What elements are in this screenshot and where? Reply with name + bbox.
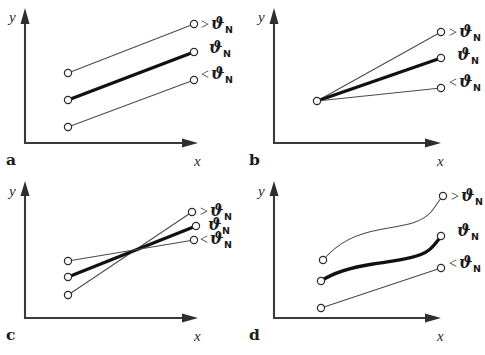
panel-letter-b: b bbox=[249, 150, 260, 169]
endpoint-marker bbox=[190, 48, 197, 55]
endpoint-marker bbox=[64, 123, 71, 130]
series-label-nominal: ϑN bbox=[209, 38, 231, 59]
x-axis-arrow-icon bbox=[425, 139, 441, 148]
x-axis-label: x bbox=[436, 328, 444, 344]
axis-lines bbox=[274, 192, 429, 318]
y-axis-label: y bbox=[7, 9, 16, 25]
series-line-nominal bbox=[68, 226, 196, 277]
x-axis-arrow-icon bbox=[182, 314, 198, 323]
axes-panel-b bbox=[270, 8, 442, 147]
endpoint-marker bbox=[64, 291, 71, 298]
endpoint-marker bbox=[190, 236, 197, 243]
series-group-panel-c bbox=[64, 208, 199, 298]
axes-panel-c bbox=[21, 181, 199, 322]
endpoint-marker bbox=[64, 96, 71, 103]
y-axis-label: y bbox=[256, 183, 265, 199]
series-line-below bbox=[321, 268, 441, 308]
y-axis-arrow-icon bbox=[21, 181, 30, 196]
series-label-nominal: ϑN bbox=[457, 45, 479, 66]
endpoint-marker bbox=[437, 54, 444, 61]
axis-lines bbox=[25, 20, 186, 143]
y-axis-arrow-icon bbox=[270, 181, 279, 196]
endpoint-marker bbox=[64, 69, 71, 76]
series-line-above bbox=[317, 32, 441, 101]
y-axis-arrow-icon bbox=[270, 8, 279, 24]
endpoint-marker-origin bbox=[313, 97, 320, 104]
x-axis-label: x bbox=[436, 153, 444, 169]
panel-b: y x b >ϑN ϑN <ϑN bbox=[243, 0, 485, 177]
endpoint-marker bbox=[317, 304, 324, 311]
panel-letter-c: c bbox=[6, 325, 15, 344]
endpoint-marker bbox=[190, 76, 197, 83]
panel-letter-a: a bbox=[6, 150, 16, 169]
endpoint-marker bbox=[319, 256, 326, 263]
endpoint-marker bbox=[64, 273, 71, 280]
series-group-panel-d bbox=[317, 192, 446, 311]
panel-a: y x a >ϑN ϑN <ϑN bbox=[0, 0, 242, 177]
series-label-below: <ϑN bbox=[449, 72, 481, 93]
series-label-above: >ϑN bbox=[451, 186, 483, 207]
endpoint-marker bbox=[437, 264, 444, 271]
series-line-above bbox=[68, 24, 194, 73]
series-label-above: >ϑN bbox=[449, 22, 481, 43]
series-line-below bbox=[68, 80, 194, 127]
endpoint-marker bbox=[437, 232, 444, 239]
series-curve-above bbox=[323, 196, 443, 260]
endpoint-marker bbox=[439, 192, 446, 199]
figure-four-panel-schematic: y x a >ϑN ϑN <ϑN y x bbox=[0, 0, 485, 355]
y-axis-label: y bbox=[7, 183, 16, 199]
series-label-above: >ϑN bbox=[201, 14, 233, 35]
y-axis-arrow-icon bbox=[21, 8, 30, 24]
endpoint-marker bbox=[188, 208, 195, 215]
panel-d: y x d >ϑN ϑN <ϑN bbox=[243, 178, 485, 355]
axes-panel-a bbox=[21, 8, 199, 147]
series-label-nominal: ϑN bbox=[457, 221, 479, 242]
endpoint-marker bbox=[317, 277, 324, 284]
x-axis-label: x bbox=[193, 153, 201, 169]
x-axis-arrow-icon bbox=[425, 314, 441, 323]
panel-c: y x c >ϑN ϑN <ϑN bbox=[0, 178, 242, 355]
endpoint-marker bbox=[437, 84, 444, 91]
series-group-panel-b bbox=[313, 28, 444, 104]
series-label-below: <ϑN bbox=[449, 253, 481, 274]
endpoint-marker bbox=[64, 257, 71, 264]
endpoint-marker bbox=[437, 28, 444, 35]
panel-letter-d: d bbox=[249, 325, 260, 344]
endpoint-marker bbox=[192, 222, 199, 229]
axes-panel-d bbox=[270, 181, 442, 322]
series-label-below: <ϑN bbox=[201, 64, 233, 85]
series-group-panel-a bbox=[64, 20, 197, 130]
y-axis-label: y bbox=[256, 9, 265, 25]
endpoint-marker bbox=[190, 20, 197, 27]
series-line-nominal bbox=[68, 52, 194, 100]
x-axis-label: x bbox=[193, 328, 201, 344]
x-axis-arrow-icon bbox=[182, 139, 198, 148]
series-line-below bbox=[68, 240, 194, 261]
